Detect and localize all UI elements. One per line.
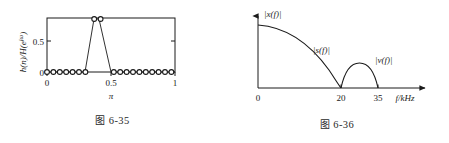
sample-marker	[131, 70, 136, 75]
sample-marker	[118, 70, 123, 75]
sample-marker	[83, 70, 88, 75]
sample-marker	[111, 70, 116, 75]
sample-marker	[51, 70, 56, 75]
envelope-polyline-left	[47, 19, 175, 72]
y-tick-label-0.5: 0.5	[33, 37, 45, 47]
curve-label-v-f: |v(f)|	[375, 55, 392, 65]
figure-6-36: |x(f)| |s(f)| |v(f)| 0 20 35 f/kHz 图 6-3…	[225, 0, 449, 143]
sample-marker	[163, 70, 168, 75]
caption-number-left: 6-35	[109, 115, 130, 126]
sample-marker	[70, 70, 75, 75]
x-tick-label-35: 35	[374, 93, 384, 103]
sample-marker	[143, 70, 148, 75]
figure-page: h(n)/H(ejω) 0.5 0 0 0.5 1 π	[0, 0, 449, 143]
sample-marker	[77, 70, 82, 75]
sample-marker	[64, 70, 69, 75]
sample-marker	[45, 70, 50, 75]
sample-marker	[137, 70, 142, 75]
sample-marker-peak	[98, 17, 103, 22]
svg-text:h(n)/H(ejω): h(n)/H(ejω)	[17, 32, 29, 72]
y-axis-title-main: h(n)/H(e	[18, 41, 28, 72]
caption-number-right: 6-36	[333, 119, 354, 130]
figure-6-35-caption: 图 6-35	[0, 112, 225, 127]
x-tick-label-0.5: 0.5	[105, 78, 117, 88]
sample-marker	[124, 70, 129, 75]
y-axis-title-tail: )	[18, 32, 28, 36]
y-tick-label-0: 0	[40, 68, 45, 78]
curve-v-f	[341, 63, 378, 88]
curve-s-f	[258, 25, 341, 88]
x-tick-label-0: 0	[256, 93, 261, 103]
x-tick-label-0: 0	[45, 78, 50, 88]
figure-6-35-plot: h(n)/H(ejω) 0.5 0 0 0.5 1 π	[0, 0, 225, 110]
caption-cjk-right: 图	[320, 119, 330, 130]
figure-6-36-caption: 图 6-36	[225, 116, 449, 131]
sample-marker	[150, 70, 155, 75]
curve-label-s-f: |s(f)|	[313, 45, 330, 55]
x-tick-label-1: 1	[173, 78, 178, 88]
x-axis-title-left: π	[109, 91, 114, 101]
sample-marker	[57, 70, 62, 75]
figure-6-36-plot: |x(f)| |s(f)| |v(f)| 0 20 35 f/kHz	[225, 0, 449, 115]
sample-marker-peak	[92, 17, 97, 22]
x-tick-label-20: 20	[337, 93, 347, 103]
y-axis-title-left: h(n)/H(ejω)	[17, 32, 29, 72]
caption-cjk-left: 图	[95, 115, 105, 126]
x-axis-title-right: f/kHz	[396, 93, 415, 103]
sample-marker	[156, 70, 161, 75]
sample-marker	[169, 70, 174, 75]
y-axis-title-right: |x(f)|	[264, 9, 281, 19]
figure-6-35: h(n)/H(ejω) 0.5 0 0 0.5 1 π	[0, 0, 225, 143]
plot-frame-left	[47, 18, 175, 72]
